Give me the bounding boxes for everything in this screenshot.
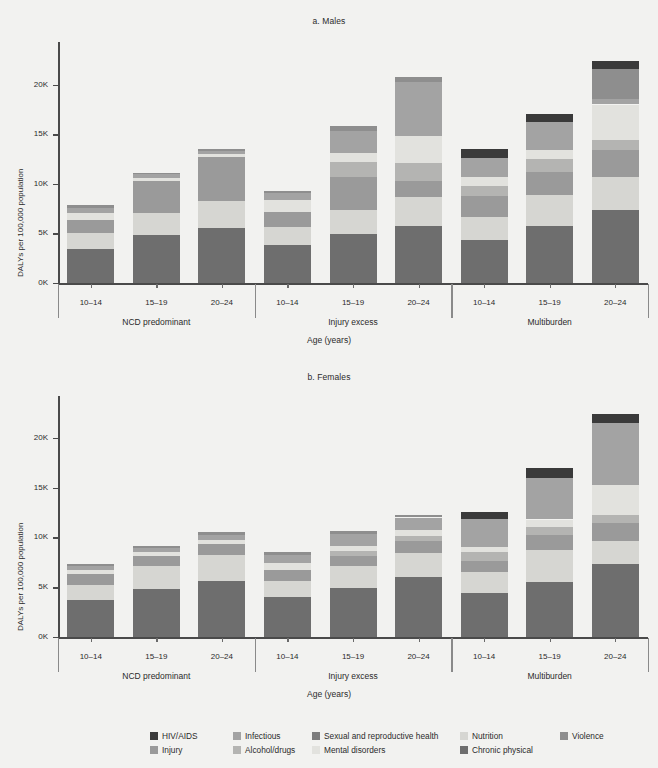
y-tick-label: 5K: [4, 229, 48, 237]
x-axis-title: Age (years): [0, 689, 658, 699]
y-tick: [53, 233, 58, 234]
bar-segment-alcohol-drugs: [330, 551, 377, 556]
bar-segment-nutrition: [264, 581, 311, 597]
bar-segment-nutrition: [330, 210, 377, 235]
panel-title-1: a. Males: [0, 16, 658, 26]
x-tick: [484, 638, 485, 642]
bar-segment-infectious: [264, 555, 311, 563]
bar-males-ncd-predominant-20–24: [198, 149, 245, 283]
group-label-ncd-predominant: NCD predominant: [58, 318, 255, 327]
bar-segment-chronic-physical: [395, 577, 442, 637]
legend-item-alcohol-drugs[interactable]: Alcohol/drugs: [233, 744, 295, 757]
bar-segment-infectious: [67, 208, 114, 213]
legend-item-sexual-and-reproductive-health[interactable]: Sexual and reproductive health: [312, 730, 438, 743]
legend-label: Sexual and reproductive health: [324, 731, 438, 741]
x-tick: [419, 638, 420, 642]
bar-segment-chronic-physical: [592, 210, 639, 283]
x-category-label-10–14: 10–14: [454, 652, 514, 661]
legend-item-hiv-aids[interactable]: HIV/AIDS: [150, 730, 198, 743]
bar-segment-alcohol-drugs: [395, 163, 442, 181]
legend-label: Violence: [572, 731, 604, 741]
x-tick: [156, 638, 157, 642]
bar-females-injury-excess-15–19: [330, 531, 377, 637]
legend-item-violence[interactable]: Violence: [560, 730, 604, 743]
bar-segment-chronic-physical: [330, 588, 377, 637]
bar-segment-mental-disorders: [461, 547, 508, 552]
y-tick: [53, 537, 58, 538]
x-category-label-20–24: 20–24: [192, 652, 252, 661]
bar-segment-violence: [264, 552, 311, 554]
bar-segment-mental-disorders: [198, 540, 245, 544]
bar-segment-mental-disorders: [592, 105, 639, 141]
legend-item-nutrition[interactable]: Nutrition: [460, 730, 503, 743]
bar-segment-nutrition: [67, 233, 114, 249]
legend-swatch-icon: [460, 746, 468, 754]
x-category-label-15–19: 15–19: [323, 298, 383, 307]
legend-swatch-icon: [233, 746, 241, 754]
bar-segment-nutrition: [395, 197, 442, 227]
bar-segment-hiv-aids: [526, 114, 573, 122]
bar-females-ncd-predominant-15–19: [133, 546, 180, 637]
y-tick: [53, 184, 58, 185]
bar-segment-chronic-physical: [330, 234, 377, 283]
bar-segment-injury: [461, 561, 508, 572]
legend-item-infectious[interactable]: Infectious: [233, 730, 281, 743]
bar-segment-infectious: [592, 99, 639, 105]
x-category-label-15–19: 15–19: [520, 652, 580, 661]
bar-segment-infectious: [198, 151, 245, 154]
legend-item-injury[interactable]: Injury: [150, 744, 182, 757]
bar-segment-nutrition: [461, 572, 508, 593]
bar-segment-injury: [526, 535, 573, 550]
bar-segment-infectious: [395, 518, 442, 531]
bar-segment-injury: [395, 541, 442, 553]
y-tick-label: 15K: [4, 484, 48, 492]
bar-segment-chronic-physical: [264, 597, 311, 637]
group-label-injury-excess: Injury excess: [255, 672, 452, 681]
bar-segment-injury: [461, 196, 508, 217]
bar-segment-nutrition: [395, 553, 442, 577]
bar-segment-infectious: [395, 82, 442, 137]
y-axis-line: [58, 396, 60, 638]
x-category-label-10–14: 10–14: [61, 652, 121, 661]
bar-segment-nutrition: [330, 566, 377, 588]
bar-females-injury-excess-20–24: [395, 515, 442, 637]
bar-segment-alcohol-drugs: [526, 159, 573, 172]
x-category-label-15–19: 15–19: [126, 298, 186, 307]
legend-item-mental-disorders[interactable]: Mental disorders: [312, 744, 385, 757]
group-band-edge: [648, 638, 649, 672]
bar-segment-infectious: [133, 548, 180, 552]
bar-segment-infectious: [526, 122, 573, 150]
bar-segment-violence: [264, 191, 311, 193]
group-label-multiburden: Multiburden: [451, 318, 648, 327]
bar-segment-mental-disorders: [395, 530, 442, 536]
bar-segment-injury: [198, 157, 245, 201]
bar-segment-mental-disorders: [330, 153, 377, 162]
bar-segment-mental-disorders: [461, 177, 508, 186]
legend-item-chronic-physical[interactable]: Chronic physical: [460, 744, 533, 757]
group-separator: [255, 638, 256, 672]
x-category-label-15–19: 15–19: [126, 652, 186, 661]
x-tick: [91, 284, 92, 288]
bar-females-multiburden-20–24: [592, 414, 639, 637]
bar-segment-alcohol-drugs: [395, 536, 442, 541]
bar-segment-alcohol-drugs: [526, 527, 573, 535]
bar-segment-mental-disorders: [264, 563, 311, 570]
bar-segment-mental-disorders: [526, 150, 573, 159]
bar-segment-violence: [330, 531, 377, 533]
y-tick-label: 15K: [4, 130, 48, 138]
x-category-label-20–24: 20–24: [192, 298, 252, 307]
legend-row-1: HIV/AIDSInfectiousSexual and reproductiv…: [0, 730, 658, 743]
legend-label: Alcohol/drugs: [245, 745, 295, 755]
bar-segment-hiv-aids: [461, 512, 508, 520]
bar-segment-violence: [67, 205, 114, 208]
bar-segment-injury: [395, 181, 442, 197]
bar-segment-infectious: [330, 534, 377, 546]
bar-males-ncd-predominant-10–14: [67, 205, 114, 283]
bar-segment-injury: [67, 574, 114, 585]
bar-segment-alcohol-drugs: [592, 515, 639, 524]
x-tick: [484, 284, 485, 288]
bar-segment-mental-disorders: [526, 520, 573, 528]
bar-segment-violence: [133, 173, 180, 174]
bar-segment-mental-disorders: [592, 485, 639, 515]
bar-segment-hiv-aids: [526, 468, 573, 478]
